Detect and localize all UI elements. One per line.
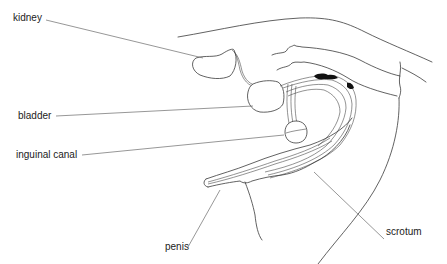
body-fold [399, 62, 401, 98]
marker-dark-2 [347, 83, 354, 89]
kidney-shape [193, 49, 237, 78]
label-kidney: kidney [13, 12, 42, 24]
bladder-leader [56, 106, 253, 116]
thigh-outline-lower [277, 62, 397, 96]
body-outline-back [178, 18, 432, 62]
label-inguinal-canal: inguinal canal [16, 149, 77, 161]
kidney-leader [46, 20, 203, 58]
ureter-inner [234, 52, 259, 86]
label-bladder: bladder [18, 110, 51, 122]
hip-outline [402, 68, 426, 82]
penis-leader [188, 190, 220, 247]
scrotum-outer-edge [318, 98, 399, 264]
scrotum-leader [314, 172, 384, 239]
label-penis: penis [165, 241, 189, 253]
leg-outline [245, 182, 262, 240]
inguinal-canal-leader [82, 135, 284, 155]
penis-lower-edge [208, 125, 350, 187]
marker-dark-1 [314, 74, 338, 80]
bladder-shape [248, 81, 284, 113]
anatomy-diagram [0, 0, 447, 264]
label-scrotum: scrotum [386, 226, 422, 238]
penis-tip [204, 179, 208, 187]
testis-shape [285, 121, 307, 143]
